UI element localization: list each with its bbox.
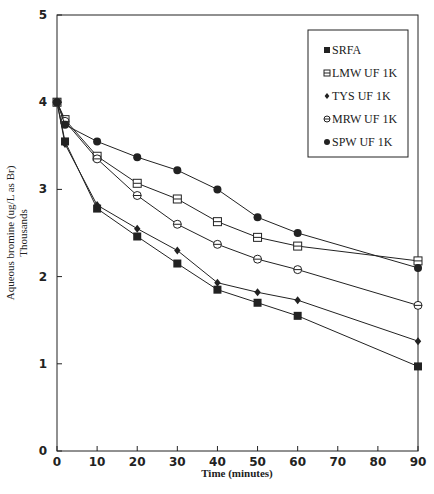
y-axis-ticks: 012345 (39, 8, 62, 458)
circle-marker-icon (133, 153, 141, 161)
hollow-circle-marker-icon (213, 240, 221, 248)
diamond-marker-icon (174, 246, 180, 254)
hollow-square-marker-icon (133, 179, 141, 187)
hollow-circle-marker-icon (93, 155, 101, 163)
hollow-circle-marker-icon (133, 192, 141, 200)
hollow-circle-marker-icon (324, 116, 330, 122)
legend-label: MRW UF 1K (332, 112, 397, 126)
legend-item: SPW UF 1K (324, 135, 393, 149)
hollow-square-marker-icon (213, 218, 221, 226)
circle-marker-icon (213, 185, 221, 193)
x-tick-label: 0 (53, 455, 61, 469)
diamond-marker-icon (214, 279, 220, 287)
circle-marker-icon (414, 264, 422, 272)
y-tick-label: 0 (39, 444, 47, 458)
legend-label: SPW UF 1K (332, 135, 393, 149)
legend-item: TYS UF 1K (325, 89, 391, 103)
circle-marker-icon (93, 137, 101, 145)
legend-label: LMW UF 1K (332, 66, 397, 80)
line-chart: 012345 0102030405060708090 SRFALMW UF 1K… (0, 0, 434, 494)
legend-item: LMW UF 1K (324, 66, 397, 80)
y-tick-label: 4 (39, 95, 47, 109)
square-marker-icon (173, 260, 181, 268)
circle-marker-icon (61, 121, 69, 129)
y-tick-label: 3 (39, 182, 47, 196)
square-marker-icon (213, 286, 221, 294)
x-tick-label: 10 (89, 455, 106, 469)
diamond-marker-icon (294, 296, 300, 304)
x-tick-label: 60 (289, 455, 306, 469)
hollow-square-marker-icon (324, 70, 330, 76)
y-axis-units: Thousands (17, 209, 29, 257)
x-tick-label: 70 (329, 455, 346, 469)
square-marker-icon (414, 362, 422, 370)
square-marker-icon (254, 299, 262, 307)
hollow-circle-marker-icon (173, 220, 181, 228)
x-tick-label: 90 (410, 455, 427, 469)
y-tick-label: 2 (39, 270, 47, 284)
hollow-square-marker-icon (414, 257, 422, 265)
square-marker-icon (324, 47, 330, 53)
x-tick-label: 80 (370, 455, 387, 469)
circle-marker-icon (173, 166, 181, 174)
legend-item: MRW UF 1K (324, 112, 397, 126)
hollow-square-marker-icon (294, 242, 302, 250)
square-marker-icon (294, 312, 302, 320)
circle-marker-icon (294, 229, 302, 237)
square-marker-icon (133, 232, 141, 240)
y-axis-title: Aqueous bromine (ug/L as Br) (4, 165, 17, 300)
x-tick-label: 20 (129, 455, 146, 469)
hollow-circle-marker-icon (254, 255, 262, 263)
y-tick-label: 5 (39, 8, 47, 22)
hollow-square-marker-icon (254, 233, 262, 241)
diamond-marker-icon (134, 225, 140, 233)
x-tick-label: 30 (169, 455, 186, 469)
circle-marker-icon (324, 139, 330, 145)
legend: SRFALMW UF 1KTYS UF 1KMRW UF 1KSPW UF 1K (308, 30, 408, 157)
hollow-circle-marker-icon (294, 266, 302, 274)
diamond-marker-icon (254, 288, 260, 296)
circle-marker-icon (53, 98, 61, 106)
hollow-square-marker-icon (173, 195, 181, 203)
circle-marker-icon (254, 213, 262, 221)
y-tick-label: 1 (39, 357, 47, 371)
x-axis-ticks: 0102030405060708090 (53, 446, 427, 469)
legend-label: SRFA (332, 43, 361, 57)
legend-label: TYS UF 1K (332, 89, 391, 103)
diamond-marker-icon (415, 337, 421, 345)
hollow-circle-marker-icon (414, 301, 422, 309)
x-axis-title: Time (minutes) (201, 467, 273, 480)
